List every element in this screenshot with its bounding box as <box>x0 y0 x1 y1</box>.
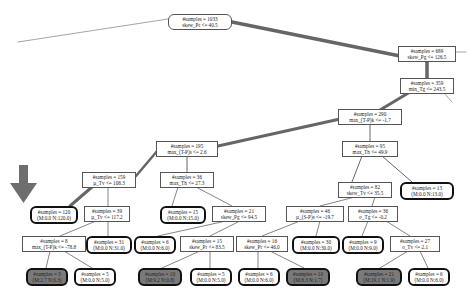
node-condition: µ_Tv <= 117.2 <box>88 214 126 220</box>
tree-node-n20: #samples = 16skew_Pr <= 46.0 <box>236 236 288 252</box>
node-condition: (M:0.0 N:6.0) <box>243 277 275 283</box>
node-condition: (M:0.0 N:13.0) <box>405 191 449 197</box>
node-condition: (M:19.1 N:1.9) <box>361 277 397 283</box>
tree-node-n22: #samples = 9(M:0.0 N:9.0) <box>342 236 384 254</box>
tree-node-n9: #samples = 82skew_Tv <= 35.5 <box>338 182 392 198</box>
tree-node-n30: #samples = 21(M:19.1 N:1.9) <box>356 268 402 286</box>
node-condition: min_Tg <= 243.5 <box>404 86 450 92</box>
tree-node-n4: #samples = 120(M:0.0 N:120.0) <box>30 206 78 224</box>
node-condition: max_(T-P)k <= -78.8 <box>26 244 82 250</box>
node-condition: max_Th <= 49.9 <box>346 149 394 155</box>
tree-node-n12: #samples = 15(M:0.0 N:15.0) <box>160 206 206 224</box>
tree-node-n1: #samples = 689skew_Pg <= 126.5 <box>398 46 456 62</box>
node-condition: skew_Pg <= 94.5 <box>216 214 262 220</box>
tree-node-n31: #samples = 6(M:0.0 N:6.0) <box>408 268 450 286</box>
tree-node-n24: #samples = 3(M:2.7 N:0.3) <box>26 268 68 286</box>
node-condition: (M:9.2 N:0.8) <box>143 277 177 283</box>
tree-node-n28: #samples = 6(M:0.0 N:6.0) <box>238 268 280 286</box>
tree-node-n7: #samples = 159µ_Tv <= 108.3 <box>82 172 136 188</box>
node-condition: max_(T-P)s <= 2.6 <box>160 149 214 155</box>
tree-node-n15: #samples = 36σ_Tg <= -0.2 <box>348 206 398 222</box>
tree-node-n5: #samples = 195max_(T-P)s <= 2.6 <box>156 141 218 157</box>
node-condition: (M:0.0 N:6.0) <box>413 277 445 283</box>
tree-node-n2: #samples = 359min_Tg <= 243.5 <box>400 78 454 94</box>
tree-node-n23: #samples = 27σ_Tv <= 2.1 <box>390 236 440 252</box>
tree-node-n16: #samples = 8max_(T-P)k <= -78.8 <box>22 236 86 252</box>
node-condition: skew_Tv <= 35.5 <box>342 190 388 196</box>
node-condition: max_(T-P)k <= -1.7 <box>342 117 398 123</box>
node-condition: (M:8.3 N:1.7) <box>291 277 325 283</box>
tree-node-n17: #samples = 31(M:0.0 N:31.0) <box>86 236 132 254</box>
tree-node-n8: #samples = 36max_Th <= 27.3 <box>160 172 214 188</box>
tree-node-n19: #samples = 15skew_Pr <= 83.5 <box>180 236 234 252</box>
node-condition: skew_Pg <= 126.5 <box>402 54 452 60</box>
node-condition: (M:2.7 N:0.3) <box>31 277 63 283</box>
edge-root-n1 <box>232 22 400 56</box>
node-condition: (M:0.0 N:30.0) <box>297 245 335 251</box>
node-condition: (M:0.0 N:9.0) <box>347 245 379 251</box>
tree-node-n3: #samples = 290max_(T-P)k <= -1.7 <box>338 109 402 125</box>
node-condition: (M:0.0 N:5.0) <box>79 277 111 283</box>
node-condition: µ_Tv <= 108.3 <box>86 180 132 186</box>
node-condition: σ_Tv <= 2.1 <box>394 244 436 250</box>
tree-node-n10: #samples = 13(M:0.0 N:13.0) <box>400 182 454 200</box>
node-condition: (M:0.0 N:6.0) <box>139 245 171 251</box>
node-condition: max_Th <= 27.3 <box>164 180 210 186</box>
highlight-arrow-icon <box>10 165 37 203</box>
node-condition: µ_(S-P)s <= -19.7 <box>290 214 340 220</box>
tree-node-n26: #samples = 10(M:9.2 N:0.8) <box>138 268 182 286</box>
node-condition: σ_Tg <= -0.2 <box>352 214 394 220</box>
tree-node-n11: #samples = 39µ_Tv <= 117.2 <box>84 206 130 222</box>
node-condition: (M:0.0 N:120.0) <box>35 215 73 221</box>
edge-root-left <box>18 19 168 42</box>
tree-node-n25: #samples = 5(M:0.0 N:5.0) <box>74 268 116 286</box>
node-condition: skew_Pr <= 46.0 <box>240 244 284 250</box>
tree-node-n18: #samples = 6(M:0.0 N:6.0) <box>134 236 176 254</box>
node-condition: (M:0.0 N:31.0) <box>91 245 127 251</box>
tree-node-n13: #samples = 21skew_Pg <= 94.5 <box>212 206 266 222</box>
tree-node-n27: #samples = 5(M:0.0 N:5.0) <box>190 268 232 286</box>
node-condition: skew_Pr <= 40.5 <box>172 22 228 28</box>
node-condition: (M:0.0 N:15.0) <box>165 215 201 221</box>
node-condition: (M:0.0 N:5.0) <box>195 277 227 283</box>
tree-node-root: #samples = 1033skew_Pr <= 40.5 <box>168 14 232 30</box>
node-condition: skew_Pr <= 83.5 <box>184 244 230 250</box>
tree-node-n29: #samples = 10(M:8.3 N:1.7) <box>286 268 330 286</box>
tree-node-n21: #samples = 30(M:0.0 N:30.0) <box>292 236 340 254</box>
tree-node-n14: #samples = 46µ_(S-P)s <= -19.7 <box>286 206 344 222</box>
tree-node-n6: #samples = 95max_Th <= 49.9 <box>342 141 398 157</box>
